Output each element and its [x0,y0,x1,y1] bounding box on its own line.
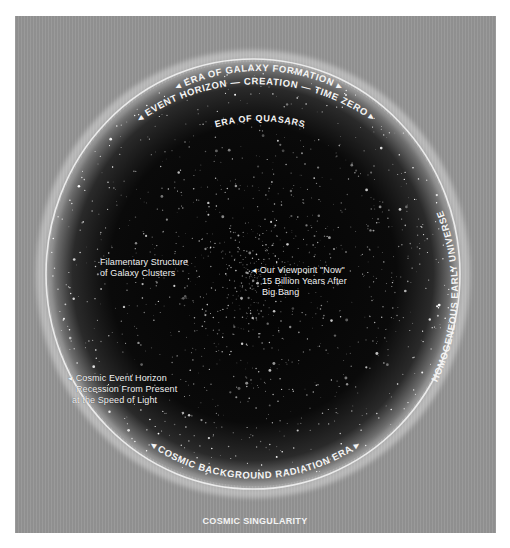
star [207,214,209,216]
star [283,251,284,252]
star [372,218,373,219]
star [323,318,324,319]
star [116,125,117,126]
star [197,109,198,110]
star [86,262,87,263]
star [220,310,221,311]
star [251,299,252,300]
star [410,312,411,313]
star [289,217,290,218]
star [162,255,163,256]
star [392,282,393,283]
star [301,152,303,154]
star [325,349,326,350]
star [416,226,417,227]
star [312,328,313,329]
star [204,313,205,314]
star [212,234,213,235]
star [272,362,275,365]
star [225,273,227,275]
star [307,189,308,190]
star [183,179,185,181]
star [234,259,235,260]
star [438,262,439,263]
star [253,198,254,199]
star [295,236,296,237]
star [137,342,139,344]
star [363,150,364,151]
star [213,330,214,331]
star [337,123,338,124]
star [179,434,180,435]
star [336,380,337,381]
star [278,258,279,259]
star [237,251,238,252]
star [214,243,215,244]
star [239,305,240,306]
star [111,245,112,246]
star [127,313,128,314]
star [164,421,165,422]
star [155,152,156,153]
star [161,430,162,431]
star [259,225,260,226]
star [327,301,328,302]
star [288,389,289,390]
star [369,316,371,318]
star [219,274,220,275]
star [315,254,316,255]
star [187,100,188,101]
star [419,263,420,264]
star [317,242,318,243]
star [367,272,368,273]
star [257,206,258,207]
star [355,170,357,172]
star [261,263,262,264]
star [99,361,100,362]
star [339,145,340,146]
star [133,170,134,171]
star [268,369,271,372]
star [367,246,368,247]
star [152,236,153,237]
star [352,162,353,163]
star [397,383,399,385]
star [365,189,368,192]
star [137,335,138,336]
star [164,413,165,414]
star [304,163,306,165]
star [373,276,374,277]
star [215,155,216,156]
star [87,301,88,302]
star [127,423,128,424]
star [330,257,331,258]
star [412,167,414,169]
star [300,423,301,424]
star [146,105,147,106]
label-line: 15 Billion Years After [252,276,347,287]
star [69,200,70,201]
star [335,156,336,157]
star [158,433,160,435]
star [149,251,150,252]
star [367,228,369,230]
star [160,312,161,313]
star [221,351,222,352]
star [341,202,342,203]
star [279,378,281,380]
star [252,435,253,436]
star [260,378,261,379]
star [171,335,172,336]
star [159,92,160,93]
label-line: of Galaxy Clusters [100,268,188,279]
star [255,368,257,370]
star [276,220,277,221]
star [432,234,433,235]
star [225,253,226,254]
star [182,207,183,208]
star [363,276,364,277]
star [194,317,196,319]
star [423,234,424,235]
star [403,317,404,318]
star [293,185,294,186]
